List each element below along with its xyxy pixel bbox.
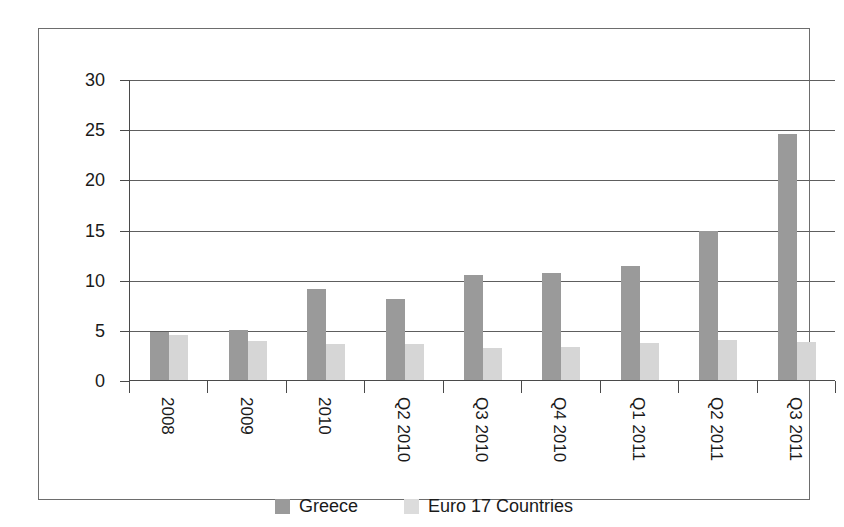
x-axis-tick-mark	[678, 381, 679, 393]
x-axis-category-label: Q3 2010	[473, 397, 490, 462]
bar-group	[307, 80, 345, 380]
chart-legend: GreeceEuro 17 Countries	[39, 497, 809, 515]
legend-label: Euro 17 Countries	[428, 497, 573, 515]
x-axis-tick-mark	[600, 381, 601, 393]
bar-group	[464, 80, 502, 380]
bar-euro-17-countries	[797, 342, 816, 380]
y-axis-tick-mark	[120, 231, 129, 232]
legend-swatch-icon	[275, 499, 290, 514]
bar-euro-17-countries	[169, 335, 188, 380]
bar-euro-17-countries	[405, 344, 424, 380]
y-axis-tick-label: 15	[71, 222, 105, 240]
y-axis-tick-mark	[120, 80, 129, 81]
x-axis-category-label: 2009	[238, 397, 255, 435]
bar-group	[699, 80, 737, 380]
x-axis-tick-mark	[521, 381, 522, 393]
bar-greece	[778, 134, 797, 380]
y-axis-tick-label: 20	[71, 171, 105, 189]
y-axis-tick-mark	[120, 331, 129, 332]
x-axis-tick-mark	[757, 381, 758, 393]
bar-greece	[699, 231, 718, 380]
legend-item-greece[interactable]: Greece	[275, 497, 358, 515]
x-axis-category-label: 2010	[316, 397, 333, 435]
y-axis-tick-label: 10	[71, 272, 105, 290]
bar-greece	[621, 266, 640, 380]
x-axis-category-label: Q2 2011	[708, 397, 725, 461]
x-axis-category-label: 2008	[159, 397, 176, 435]
y-axis-tick-label: 25	[71, 121, 105, 139]
bar-greece	[386, 299, 405, 380]
y-axis-tick-mark	[120, 381, 129, 382]
x-axis-tick-mark	[286, 381, 287, 393]
bar-euro-17-countries	[326, 344, 345, 380]
bar-euro-17-countries	[640, 343, 659, 380]
x-axis-tick-mark	[364, 381, 365, 393]
y-axis-tick-mark	[120, 281, 129, 282]
bar-euro-17-countries	[483, 348, 502, 380]
plot-area	[129, 80, 835, 381]
x-axis-category-label: Q2 2010	[395, 397, 412, 462]
legend-item-euro[interactable]: Euro 17 Countries	[404, 497, 573, 515]
bar-group	[229, 80, 267, 380]
x-axis-tick-mark	[443, 381, 444, 393]
bar-group	[150, 80, 188, 380]
bar-euro-17-countries	[561, 347, 580, 380]
y-axis-tick-label: 30	[71, 71, 105, 89]
x-axis-tick-mark	[835, 381, 836, 393]
bar-greece	[464, 275, 483, 380]
y-axis-tick-mark	[120, 130, 129, 131]
x-axis-category-label: Q3 2011	[787, 397, 804, 461]
bar-group	[621, 80, 659, 380]
bar-group	[386, 80, 424, 380]
legend-label: Greece	[299, 497, 358, 515]
x-axis-tick-mark	[207, 381, 208, 393]
bar-greece	[150, 332, 169, 380]
x-axis-category-label: Q4 2010	[551, 397, 568, 462]
y-axis-tick-label: 0	[71, 372, 105, 390]
bar-greece	[542, 273, 561, 380]
x-axis-tick-mark	[129, 381, 130, 393]
bar-group	[542, 80, 580, 380]
legend-swatch-icon	[404, 499, 419, 514]
y-axis-tick-label: 5	[71, 322, 105, 340]
bar-euro-17-countries	[248, 341, 267, 380]
figure-frame: 051015202530 200820092010Q2 2010Q3 2010Q…	[38, 28, 810, 500]
bar-greece	[229, 330, 248, 380]
bar-group	[778, 80, 816, 380]
bar-greece	[307, 289, 326, 380]
y-axis-tick-mark	[120, 180, 129, 181]
bar-euro-17-countries	[718, 340, 737, 380]
x-axis-category-label: Q1 2011	[630, 397, 647, 461]
